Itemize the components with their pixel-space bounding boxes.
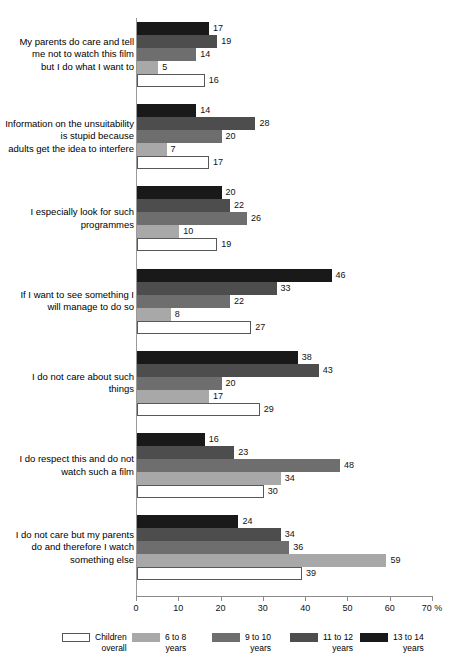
category-label-line: is stupid because [4,130,134,143]
bar[interactable] [137,282,277,295]
category-label-line: My parents do care and tell [4,36,134,49]
bar[interactable] [137,403,260,416]
bar-value-label: 14 [200,49,210,59]
bar[interactable] [137,567,302,580]
legend-item[interactable]: 11 to 12 years [290,632,353,653]
category-label: Information on the unsuitabilityis stupi… [4,118,134,156]
bar[interactable] [137,351,298,364]
bar-value-label: 10 [183,226,193,236]
legend-swatch [212,633,240,642]
bar[interactable] [137,143,167,156]
bar-value-label: 5 [162,62,167,72]
bar-group: My parents do care and tellme not to wat… [0,22,468,87]
bar-chart: 010203040506070 % My parents do care and… [0,0,468,670]
bar-value-label: 28 [259,118,269,128]
category-label-line: but I do what I want to [4,61,134,74]
category-label-line: If I want to see something I [4,289,134,302]
x-axis-tick [136,596,137,601]
bar[interactable] [137,364,319,377]
bar[interactable] [137,515,238,528]
bar[interactable] [137,485,264,498]
x-axis-tick [347,596,348,601]
category-label-line: will manage to do so [4,301,134,314]
x-axis-tick-label: 60 [385,603,395,613]
bar-value-label: 27 [255,322,265,332]
bar[interactable] [137,554,386,567]
bar[interactable] [137,212,247,225]
bar[interactable] [137,446,234,459]
bar-value-label: 38 [302,352,312,362]
bar[interactable] [137,117,255,130]
bar-value-label: 34 [285,473,295,483]
bar[interactable] [137,472,281,485]
bar[interactable] [137,35,217,48]
bar-value-label: 29 [264,404,274,414]
bar[interactable] [137,541,289,554]
category-label-line: I do not care but my parents [4,529,134,542]
bar[interactable] [137,528,281,541]
category-label: My parents do care and tellme not to wat… [4,36,134,74]
bar[interactable] [137,22,209,35]
legend-item[interactable]: Children overall [62,632,127,653]
bar-value-label: 59 [390,555,400,565]
bar-value-label: 14 [200,105,210,115]
bar[interactable] [137,225,179,238]
bar-value-label: 17 [213,23,223,33]
bar-value-label: 19 [221,239,231,249]
category-label-line: programmes [4,219,134,232]
bar[interactable] [137,433,205,446]
bar[interactable] [137,459,340,472]
bar-value-label: 43 [323,365,333,375]
category-label-line: adults get the idea to interfere [4,143,134,156]
category-label-line: I especially look for such [4,206,134,219]
category-label-line: me not to watch this film [4,48,134,61]
bar[interactable] [137,377,222,390]
bar-value-label: 19 [221,36,231,46]
bar-value-label: 48 [344,460,354,470]
category-label: I especially look for suchprogrammes [4,206,134,231]
legend-item[interactable]: 9 to 10 years [212,632,271,653]
legend-item[interactable]: 6 to 8 years [132,632,186,653]
bar[interactable] [137,74,205,87]
bar[interactable] [137,61,158,74]
category-label: I do respect this and do notwatch such a… [4,453,134,478]
category-label-line: I do respect this and do not [4,453,134,466]
bar-value-label: 20 [226,131,236,141]
bar[interactable] [137,321,251,334]
bar[interactable] [137,295,230,308]
category-label-line: Information on the unsuitability [4,118,134,131]
bar[interactable] [137,390,209,403]
bar-value-label: 20 [226,378,236,388]
bar[interactable] [137,186,222,199]
x-axis-tick-label: 0 [133,603,138,613]
bar-group: I especially look for suchprogrammes2022… [0,186,468,251]
bar[interactable] [137,199,230,212]
bar-group: I do respect this and do notwatch such a… [0,433,468,498]
bar[interactable] [137,269,332,282]
x-axis-tick-label: 50 [342,603,352,613]
x-axis-tick [178,596,179,601]
bar[interactable] [137,130,222,143]
legend-label: 11 to 12 years [323,632,353,653]
bar-value-label: 8 [175,309,180,319]
bar[interactable] [137,238,217,251]
bar-value-label: 39 [306,568,316,578]
bar-value-label: 22 [234,200,244,210]
bar-value-label: 30 [268,486,278,496]
legend-label: 6 to 8 years [165,632,186,653]
bar-value-label: 46 [336,270,346,280]
bar[interactable] [137,156,209,169]
x-axis-tick-label: 30 [258,603,268,613]
bar[interactable] [137,104,196,117]
legend-swatch [290,633,318,642]
plot-area: 010203040506070 % My parents do care and… [0,0,468,600]
legend-swatch [62,633,90,642]
bar[interactable] [137,308,171,321]
category-label-line: things [4,383,134,396]
x-axis-line [136,596,432,597]
bar-value-label: 34 [285,529,295,539]
legend-item[interactable]: 13 to 14 years [360,632,424,653]
bar-group: Information on the unsuitabilityis stupi… [0,104,468,169]
bar-group: If I want to see something Iwill manage … [0,269,468,334]
bar[interactable] [137,48,196,61]
